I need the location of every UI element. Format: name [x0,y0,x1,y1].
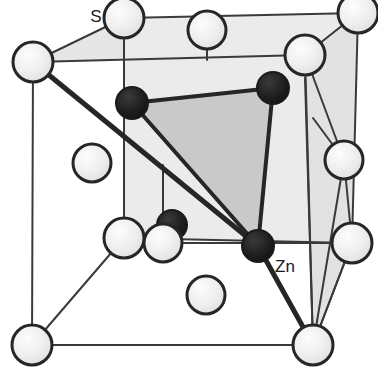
atom-s-face-right-upper [325,141,363,179]
zinc-blende-diagram: S Zn [0,0,378,371]
atom-zn-tetra-right [257,72,289,104]
atom-s-face-front-top-right [285,35,325,75]
atom-s-corner-back-top-right [338,0,378,33]
atom-s-face-left-center [73,144,111,182]
atom-s-corner-back-bottom-right [332,223,372,263]
atom-s-corner-back-bottom-left [104,218,144,258]
atom-s-face-top-center [188,11,226,49]
atom-s-interior-center [144,224,182,262]
label-sulfur: S [90,7,101,26]
atom-s-corner-front-bottom-right [293,325,333,365]
crystal-structure-figure: S Zn [0,0,378,371]
atom-s-face-bottom-center [187,276,225,314]
atom-s-corner-front-bottom-left [12,325,52,365]
atom-s-corner-back-top-left [104,0,144,38]
atom-zn-tetra-left [116,87,148,119]
label-zinc: Zn [275,257,295,276]
atom-zn-tetra-bottom [242,230,274,262]
atom-s-corner-front-top-left [13,42,53,82]
edge-ftl-fbl [32,62,33,345]
